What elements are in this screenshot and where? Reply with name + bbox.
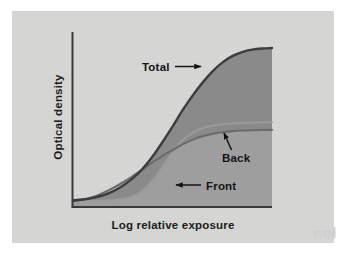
x-axis-label: Log relative exposure [0, 219, 346, 231]
annotation-label-total: Total [142, 61, 170, 73]
annotation-label-front: Front [206, 180, 236, 192]
y-axis-label: Optical density [52, 74, 64, 159]
y-axis-label-wrap: Optical density [49, 52, 67, 182]
figure: nol [0, 0, 346, 254]
annotation-label-back: Back [222, 152, 250, 164]
